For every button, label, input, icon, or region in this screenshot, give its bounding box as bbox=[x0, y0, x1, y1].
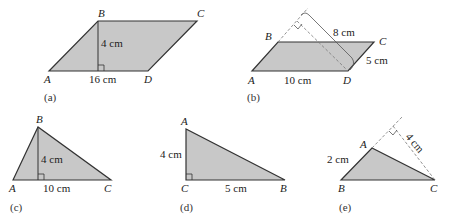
side-label: 2 cm bbox=[327, 153, 349, 165]
vertex-label: D bbox=[143, 73, 152, 85]
side-label: 5 cm bbox=[366, 54, 388, 66]
vertex-label: B bbox=[265, 30, 272, 42]
parallelogram-a bbox=[49, 21, 197, 71]
vertex-label: A bbox=[180, 115, 188, 127]
vertex-label: B bbox=[280, 182, 287, 194]
vertex-label: A bbox=[247, 74, 255, 86]
caption-d: (d) bbox=[180, 201, 193, 214]
base-label: 16 cm bbox=[89, 73, 117, 85]
vertex-label: D bbox=[342, 74, 351, 86]
parallelogram-b bbox=[252, 42, 374, 71]
vertex-label: C bbox=[379, 35, 387, 47]
vertex-label: C bbox=[430, 182, 438, 194]
base-label: 10 cm bbox=[284, 74, 312, 86]
figure-a: B C A D 4 cm 16 cm (a) bbox=[43, 7, 205, 104]
caption-a: (a) bbox=[44, 91, 57, 104]
vertex-label: A bbox=[359, 138, 367, 150]
figure-e: A B C 2 cm 4 cm (e) bbox=[327, 117, 438, 214]
vertex-label: A bbox=[8, 182, 16, 194]
figure-d: A C B 4 cm 5 cm (d) bbox=[160, 115, 287, 214]
caption-c: (c) bbox=[10, 201, 23, 214]
vertex-label: C bbox=[104, 182, 112, 194]
vertex-label: B bbox=[98, 7, 105, 19]
caption-e: (e) bbox=[339, 201, 352, 214]
height-label: 4 cm bbox=[41, 153, 63, 165]
vertex-label: B bbox=[338, 182, 345, 194]
base-label: 10 cm bbox=[43, 182, 71, 194]
vertex-label: C bbox=[197, 7, 205, 19]
base-label: 5 cm bbox=[225, 182, 247, 194]
triangle-d bbox=[186, 129, 285, 180]
vertex-label: C bbox=[181, 182, 189, 194]
height-label: 8 cm bbox=[333, 26, 355, 38]
height-label: 4 cm bbox=[101, 37, 123, 49]
triangle-e bbox=[341, 148, 435, 180]
vertex-label: B bbox=[36, 113, 43, 125]
extension-line bbox=[372, 117, 402, 148]
caption-b: (b) bbox=[247, 91, 260, 104]
figure-b: B C A D 8 cm 10 cm 5 cm (b) bbox=[247, 8, 388, 104]
vertex-label: A bbox=[43, 73, 51, 85]
right-angle-icon bbox=[389, 130, 397, 135]
height-label: 4 cm bbox=[160, 148, 182, 160]
height-label: 4 cm bbox=[403, 131, 426, 156]
figure-c: B A C 4 cm 10 cm (c) bbox=[8, 113, 112, 214]
